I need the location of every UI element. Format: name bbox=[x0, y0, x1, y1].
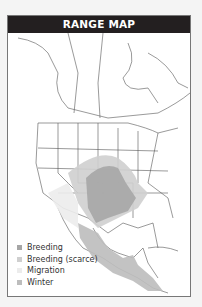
legend-item-winter: Winter bbox=[17, 277, 98, 289]
winter-swatch-icon bbox=[17, 280, 22, 285]
range-map-card: RANGE MAP bbox=[7, 15, 191, 297]
breeding-swatch-icon bbox=[17, 245, 22, 250]
legend-item-migration: Migration bbox=[17, 265, 98, 277]
legend-item-breeding: Breeding bbox=[17, 242, 98, 254]
breeding-scarce-swatch-icon bbox=[17, 257, 22, 262]
migration-swatch-icon bbox=[17, 268, 22, 273]
range-map-legend: Breeding Breeding (scarce) Migration Win… bbox=[17, 242, 98, 288]
legend-label: Migration bbox=[27, 266, 65, 275]
legend-item-breeding-scarce: Breeding (scarce) bbox=[17, 254, 98, 266]
range-map-title: RANGE MAP bbox=[8, 16, 190, 33]
legend-label: Winter bbox=[27, 278, 53, 287]
legend-label: Breeding bbox=[27, 243, 63, 252]
legend-label: Breeding (scarce) bbox=[27, 255, 98, 264]
